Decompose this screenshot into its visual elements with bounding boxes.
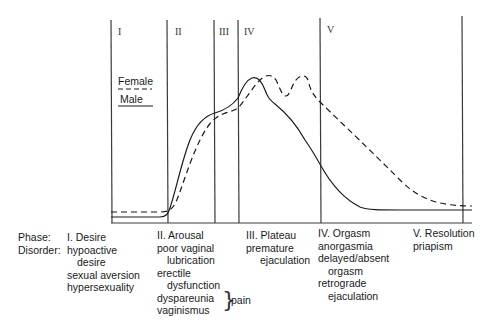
disorder-item: erectile — [157, 267, 220, 280]
disorder-item: hypersexuality — [67, 281, 140, 294]
disorder-item: premature — [246, 242, 310, 255]
disorder-item: lubrication — [157, 254, 220, 267]
phase-title: I. Desire — [67, 231, 140, 244]
disorder-row-label: Disorder: — [18, 244, 61, 257]
disorder-item: hypoactive — [67, 244, 140, 257]
disorder-item: vaginismus — [157, 304, 220, 317]
phase-column-orgasm: IV. Orgasm anorgasmia delayed/absent org… — [318, 227, 389, 302]
legend-male-label: Male — [120, 93, 143, 105]
male-curve — [111, 78, 472, 217]
phase-marker-v: V — [327, 24, 334, 35]
disorder-item: dysfunction — [157, 279, 220, 292]
disorder-item: desire — [67, 256, 140, 269]
phase-column-arousal: II. Arousal poor vaginal lubrication ere… — [157, 229, 220, 317]
disorder-item: poor vaginal — [157, 242, 220, 255]
phase-title: V. Resolution — [413, 227, 475, 240]
phase-marker-ii: II — [175, 26, 182, 37]
disorder-item: anorgasmia — [318, 240, 389, 253]
disorder-item: ejaculation — [318, 290, 389, 303]
phase-title: II. Arousal — [157, 229, 220, 242]
phase-column-plateau: III. Plateau premature ejaculation — [246, 229, 310, 267]
disorder-item: sexual aversion — [67, 269, 140, 282]
disorder-item: orgasm — [318, 265, 389, 278]
phase-marker-iv: IV — [244, 26, 255, 37]
disorder-item: dyspareunia — [157, 292, 220, 305]
pain-label: pain — [231, 294, 251, 307]
disorder-item: ejaculation — [246, 254, 310, 267]
female-curve — [111, 76, 472, 213]
phase-marker-i: I — [118, 26, 121, 37]
legend-female-label: Female — [118, 75, 153, 87]
phase-title: IV. Orgasm — [318, 227, 389, 240]
phase-column-desire: I. Desire hypoactive desire sexual avers… — [67, 231, 140, 294]
phase-column-resolution: V. Resolution priapism — [413, 227, 475, 252]
phase-title: III. Plateau — [246, 229, 310, 242]
phase-divider-lines — [111, 16, 463, 223]
disorder-item: delayed/absent — [318, 252, 389, 265]
phase-marker-iii: III — [219, 26, 229, 37]
disorder-item: priapism — [413, 240, 475, 253]
phase-row-label: Phase: — [18, 231, 61, 244]
footer-row-labels: Phase: Disorder: — [18, 231, 61, 256]
disorder-item: retrograde — [318, 277, 389, 290]
